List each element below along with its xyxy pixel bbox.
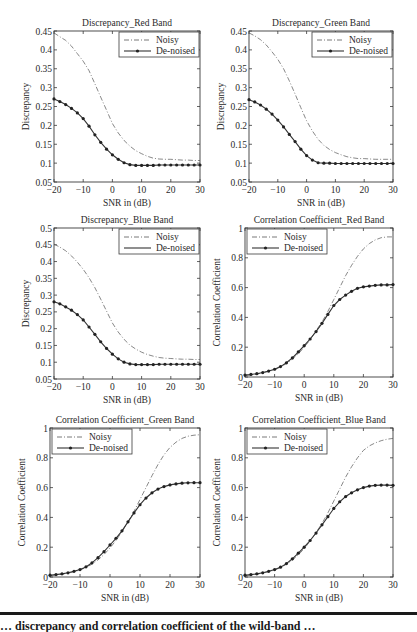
series-noisy-line <box>245 438 393 575</box>
data-marker <box>52 97 55 100</box>
data-marker <box>243 373 246 376</box>
data-marker <box>162 485 165 488</box>
y-axis-label: Discrepancy <box>216 83 226 131</box>
data-marker <box>105 347 108 350</box>
caption-rule <box>0 612 417 615</box>
series-denoised-line <box>54 302 200 365</box>
x-axis-label: SNR in (dB) <box>101 593 149 604</box>
data-marker <box>362 486 365 489</box>
data-marker <box>138 503 141 506</box>
legend-noisy-label: Noisy <box>89 432 112 442</box>
data-marker <box>193 163 196 166</box>
data-marker <box>285 361 288 364</box>
data-marker <box>351 162 354 165</box>
x-tick-label: 10 <box>329 380 339 390</box>
data-marker <box>76 111 79 114</box>
x-tick-label: 20 <box>166 185 176 195</box>
data-marker <box>253 100 256 103</box>
y-tick-label: 0.4 <box>235 45 247 55</box>
data-marker <box>111 353 114 356</box>
data-marker <box>293 140 296 143</box>
data-marker <box>320 322 323 325</box>
data-marker <box>90 561 93 564</box>
y-tick-label: 0.2 <box>40 121 52 131</box>
data-marker <box>363 162 366 165</box>
data-marker <box>198 163 201 166</box>
data-marker <box>322 162 325 165</box>
data-marker <box>93 133 96 136</box>
data-marker <box>338 500 341 503</box>
data-marker <box>385 483 388 486</box>
y-tick-label: 0.1 <box>40 159 52 169</box>
data-marker <box>52 300 55 303</box>
data-marker <box>187 163 190 166</box>
y-axis-label: Correlation Coefficient <box>17 458 27 547</box>
data-marker <box>317 161 320 164</box>
data-marker <box>169 163 172 166</box>
data-marker <box>128 362 131 365</box>
data-marker <box>380 162 383 165</box>
y-tick-label: 0.25 <box>230 102 247 112</box>
data-marker <box>122 161 125 164</box>
x-tick-label: 0 <box>110 382 115 392</box>
data-marker <box>58 100 61 103</box>
x-axis-label: SNR in (dB) <box>103 395 151 406</box>
legend-noisy-label: Noisy <box>156 35 179 45</box>
data-marker <box>140 363 143 366</box>
data-marker <box>374 284 377 287</box>
data-marker <box>102 550 105 553</box>
data-marker <box>334 162 337 165</box>
chart-title: Correlation Coefficient_Red Band <box>254 215 385 225</box>
series-denoised-line <box>245 485 393 575</box>
legend: NoisyDe-noised <box>119 229 199 254</box>
data-marker <box>309 337 312 340</box>
data-marker <box>114 537 117 540</box>
y-tick-label: 0.45 <box>230 27 247 37</box>
legend: NoisyDe-noised <box>247 429 327 454</box>
x-tick-label: 10 <box>137 185 147 195</box>
x-tick-label: 20 <box>359 185 369 195</box>
data-marker <box>374 484 377 487</box>
y-tick-label: 0.3 <box>235 83 247 93</box>
figure-grid: Discrepancy_Red Band−20−1001020300.050.1… <box>0 0 417 632</box>
data-marker <box>291 356 294 359</box>
x-tick-label: 20 <box>166 382 176 392</box>
data-marker <box>117 357 120 360</box>
data-marker <box>99 340 102 343</box>
data-marker <box>344 293 347 296</box>
data-marker <box>134 363 137 366</box>
legend-denoised-label: De-noised <box>156 243 195 253</box>
data-marker <box>291 557 294 560</box>
data-marker <box>54 573 57 576</box>
data-marker <box>158 163 161 166</box>
series-noisy-line <box>245 237 393 376</box>
data-marker <box>368 162 371 165</box>
data-marker <box>181 363 184 366</box>
y-tick-label: 0.25 <box>35 102 52 112</box>
y-tick-label: 0.35 <box>35 274 52 284</box>
y-tick-label: 0.05 <box>230 178 247 188</box>
x-tick-label: −10 <box>76 382 91 392</box>
data-marker <box>267 369 270 372</box>
y-tick-label: 0.8 <box>231 453 243 463</box>
y-tick-label: 0.45 <box>35 27 52 37</box>
data-marker <box>187 363 190 366</box>
x-tick-label: 10 <box>137 382 147 392</box>
y-tick-label: 0.25 <box>35 307 52 317</box>
data-marker <box>84 565 87 568</box>
legend-denoised-label: De-noised <box>349 46 388 56</box>
data-marker <box>146 164 149 167</box>
x-tick-label: 0 <box>302 580 307 590</box>
y-tick-label: 0.35 <box>230 64 247 74</box>
data-marker <box>285 562 288 565</box>
x-tick-label: 0 <box>110 185 115 195</box>
data-marker <box>169 363 172 366</box>
data-marker <box>134 164 137 167</box>
data-marker <box>259 103 262 106</box>
series-denoised-line <box>249 100 393 164</box>
x-tick-label: 30 <box>195 580 205 590</box>
y-tick-label: 0.8 <box>231 253 243 263</box>
data-marker <box>66 571 69 574</box>
legend: NoisyDe-noised <box>312 32 392 57</box>
y-tick-label: 0.2 <box>231 343 243 353</box>
